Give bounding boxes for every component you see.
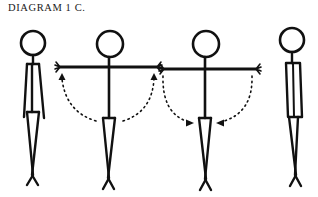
- figure-3-left-motion-arc: [163, 76, 186, 121]
- arrow-up-icon: [151, 73, 158, 80]
- figure-2-right-motion-arc: [123, 79, 154, 121]
- figure-2-body: [55, 57, 162, 189]
- figure-2-arms-raised: [55, 31, 162, 189]
- figure-3-right-motion-arc: [224, 76, 252, 121]
- diagram-canvas: [0, 0, 318, 197]
- figure-2-left-motion-arc: [62, 79, 96, 121]
- figure-3-arms-lowering: [159, 31, 261, 190]
- figure-3-right-hand: [256, 64, 261, 74]
- figure-4-head: [280, 28, 304, 52]
- figure-3-head: [193, 31, 219, 57]
- figure-3-body: [159, 57, 261, 190]
- figure-1-standing: [21, 31, 45, 185]
- figure-2-left-hand: [55, 62, 60, 72]
- arrow-left-icon: [216, 120, 224, 127]
- arrow-right-icon: [186, 120, 194, 127]
- figure-4-side-view: [280, 28, 304, 186]
- figure-2-head: [97, 31, 123, 57]
- figure-1-head: [21, 31, 45, 55]
- figure-4-body: [286, 52, 302, 186]
- figure-1-body: [24, 55, 44, 185]
- arrow-up-icon: [59, 73, 66, 80]
